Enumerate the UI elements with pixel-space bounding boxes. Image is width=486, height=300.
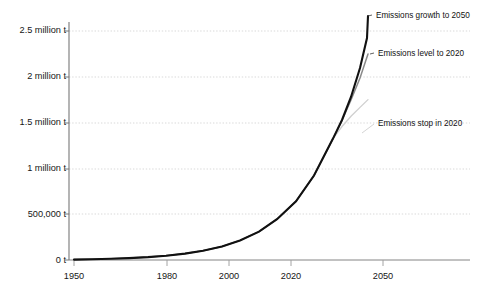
y-axis-ticks	[64, 31, 69, 260]
annotation-emissions-stop-in-2020: Emissions stop in 2020	[378, 119, 462, 128]
x-axis-ticks	[74, 260, 383, 266]
series-line-emissions-growth-to-2050	[74, 16, 368, 260]
annotation-leader-lines	[368, 15, 374, 54]
annotation-leader-line-stop	[362, 124, 374, 133]
chart-plot-area	[0, 0, 486, 300]
emissions-projection-chart: 2.5 million t 2 million t 1.5 million t …	[0, 0, 486, 300]
annotation-emissions-growth-to-2050: Emissions growth to 2050	[376, 11, 470, 20]
annotation-emissions-level-to-2020: Emissions level to 2020	[378, 49, 464, 58]
series-line-emissions-stop-in-2020	[74, 100, 368, 260]
